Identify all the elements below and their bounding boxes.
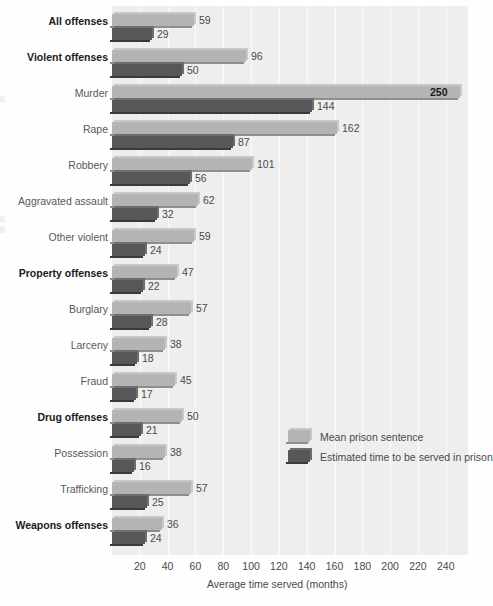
value-label-served: 29 [157, 28, 169, 40]
value-label-served: 24 [150, 532, 162, 544]
value-label-mean: 59 [199, 230, 211, 242]
legend-label-mean: Mean prison sentence [320, 431, 423, 443]
bar-time-served [112, 460, 134, 472]
value-label-mean: 36 [167, 518, 179, 530]
value-label-served: 16 [139, 460, 151, 472]
x-tick-label: 120 [270, 560, 288, 572]
category-label: Aggravated assault [0, 195, 108, 208]
bar-time-served [112, 136, 233, 148]
bar-mean-sentence [112, 302, 191, 314]
x-axis-ticks: 20406080100120140160180200220240 [0, 560, 483, 576]
value-label-served: 22 [148, 280, 160, 292]
bar-mean-sentence [112, 14, 194, 26]
value-label-served: 87 [238, 136, 250, 148]
category-label: Fraud [0, 375, 108, 388]
value-label-served: 18 [142, 352, 154, 364]
x-tick-label: 80 [217, 560, 229, 572]
value-label-mean: 250 [430, 86, 448, 98]
scan-artifact [0, 226, 5, 233]
bar-time-served [112, 100, 312, 112]
x-tick-label: 240 [437, 560, 455, 572]
bar-mean-sentence [112, 122, 337, 134]
bar-mean-sentence [112, 230, 194, 242]
value-label-served: 28 [156, 316, 168, 328]
bar-mean-sentence [112, 50, 246, 62]
category-label: Drug offenses [0, 411, 108, 424]
value-label-mean: 57 [196, 302, 208, 314]
bar-mean-sentence [112, 158, 252, 170]
bar-mean-sentence [112, 482, 191, 494]
chart-row: Robbery10156 [0, 150, 483, 186]
category-label: Murder [0, 87, 108, 100]
bar-time-served [112, 244, 145, 256]
bar-time-served [112, 28, 152, 40]
x-tick-label: 220 [409, 560, 427, 572]
x-tick-label: 140 [298, 560, 316, 572]
value-label-mean: 38 [170, 446, 182, 458]
chart-row: Aggravated assault6232 [0, 186, 483, 222]
value-label-served: 50 [187, 64, 199, 76]
scan-artifact [0, 96, 5, 103]
category-label: Other violent [0, 231, 108, 244]
category-label: Robbery [0, 159, 108, 172]
x-tick-label: 160 [326, 560, 344, 572]
value-label-mean: 96 [251, 50, 263, 62]
value-label-mean: 57 [196, 482, 208, 494]
value-label-mean: 45 [180, 374, 192, 386]
bar-time-served [112, 352, 137, 364]
category-label: Burglary [0, 303, 108, 316]
bar-mean-sentence [112, 374, 175, 386]
bar-mean-sentence [112, 410, 182, 422]
bar-rows: All offenses5929Violent offenses9650Murd… [0, 6, 483, 555]
bar-time-served [112, 208, 157, 220]
value-label-mean: 50 [187, 410, 199, 422]
value-label-mean: 101 [257, 158, 275, 170]
x-tick-label: 40 [162, 560, 174, 572]
category-label: Violent offenses [0, 51, 108, 64]
chart-row: Weapons offenses3624 [0, 510, 483, 546]
category-label: Trafficking [0, 483, 108, 496]
chart-row: Property offenses4722 [0, 258, 483, 294]
bar-mean-sentence [112, 266, 177, 278]
chart-row: Fraud4517 [0, 366, 483, 402]
chart-row: Other violent5924 [0, 222, 483, 258]
value-label-mean: 38 [170, 338, 182, 350]
x-tick-label: 180 [354, 560, 372, 572]
bar-time-served [112, 424, 141, 436]
chart-row: All offenses5929 [0, 6, 483, 42]
bar-time-served [112, 496, 147, 508]
bar-time-served [112, 388, 136, 400]
value-label-served: 56 [195, 172, 207, 184]
bar-mean-sentence [112, 338, 165, 350]
value-label-mean: 47 [182, 266, 194, 278]
chart-row: Murder250144 [0, 78, 483, 114]
category-label: Rape [0, 123, 108, 136]
category-label: Possession [0, 447, 108, 460]
x-tick-label: 200 [381, 560, 399, 572]
category-label: Property offenses [0, 267, 108, 280]
scan-artifact [0, 216, 5, 223]
chart-row: Larceny3818 [0, 330, 483, 366]
x-tick-label: 100 [242, 560, 260, 572]
category-label: Weapons offenses [0, 519, 108, 532]
value-label-served: 32 [162, 208, 174, 220]
category-label: Larceny [0, 339, 108, 352]
chart-row: Trafficking5725 [0, 474, 483, 510]
value-label-served: 17 [141, 388, 153, 400]
category-label: All offenses [0, 15, 108, 28]
value-label-served: 144 [317, 100, 335, 112]
chart-row: Rape16287 [0, 114, 483, 150]
bar-time-served [112, 64, 182, 76]
legend-swatch-mean-icon [288, 430, 310, 442]
value-label-mean: 62 [203, 194, 215, 206]
value-label-served: 25 [152, 496, 164, 508]
legend-label-served: Estimated time to be served in prison [320, 451, 493, 463]
bar-time-served [112, 316, 151, 328]
chart-row: Violent offenses9650 [0, 42, 483, 78]
value-label-served: 21 [146, 424, 158, 436]
bar-time-served [112, 532, 145, 544]
bar-time-served [112, 280, 143, 292]
chart-row: Burglary5728 [0, 294, 483, 330]
legend-swatch-served-icon [288, 450, 310, 462]
